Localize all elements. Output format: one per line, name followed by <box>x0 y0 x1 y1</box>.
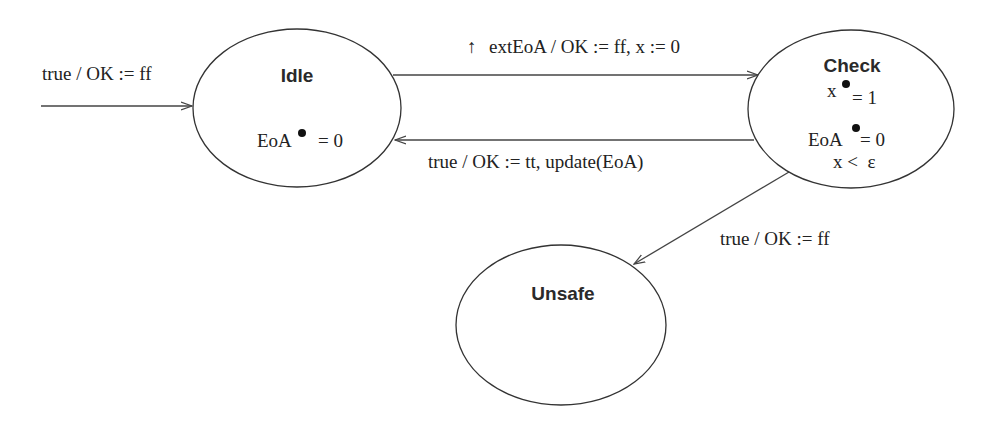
idle-to-check-label: extEoA / OK := ff, x := 0 <box>489 36 680 57</box>
unsafe-ellipse[interactable] <box>456 245 666 405</box>
transition-check-to-idle[interactable]: true / OK := tt, update(EoA) <box>395 140 754 173</box>
state-machine-diagram: true / OK := ff ↑ extEoA / OK := ff, x :… <box>0 0 991 424</box>
transition-initial[interactable]: true / OK := ff <box>41 63 192 106</box>
check-to-unsafe-label: true / OK := ff <box>720 228 830 249</box>
up-arrow-event-icon: ↑ <box>467 36 477 57</box>
derivative-dot-icon <box>852 124 860 132</box>
check-to-unsafe-arrow[interactable] <box>634 172 789 264</box>
check-to-idle-label: true / OK := tt, update(EoA) <box>428 151 643 173</box>
transition-check-to-unsafe[interactable]: true / OK := ff <box>634 172 830 264</box>
state-check[interactable]: Check x = 1 EoA = 0 x < ε <box>748 30 954 188</box>
state-unsafe[interactable]: Unsafe <box>456 245 666 405</box>
check-eoa-rhs: = 0 <box>860 129 885 150</box>
check-eoa-var: EoA <box>808 129 843 150</box>
check-title: Check <box>823 55 880 76</box>
check-condition: x < ε <box>833 151 875 172</box>
idle-eoa-var: EoA <box>257 130 292 151</box>
check-x-rhs: = 1 <box>852 87 877 108</box>
check-x-var: x <box>827 80 837 101</box>
unsafe-title: Unsafe <box>531 283 594 304</box>
transition-idle-to-check[interactable]: ↑ extEoA / OK := ff, x := 0 <box>393 36 758 75</box>
idle-eoa-rhs: = 0 <box>318 130 343 151</box>
initial-transition-label: true / OK := ff <box>42 63 152 84</box>
idle-ellipse[interactable] <box>193 29 401 187</box>
idle-title: Idle <box>281 65 314 86</box>
derivative-dot-icon <box>298 129 306 137</box>
derivative-dot-icon <box>842 80 850 88</box>
state-idle[interactable]: Idle EoA = 0 <box>193 29 401 187</box>
